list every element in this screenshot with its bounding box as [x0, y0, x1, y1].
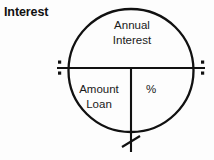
- right-divide-icon-dot-bottom: [201, 72, 204, 75]
- interest-formula-diagram: Interest Annual Interest Amount Loan %: [0, 0, 214, 160]
- left-divide-icon-dot-top: [58, 61, 61, 64]
- bottom-right-quadrant-label: %: [134, 82, 186, 97]
- right-divide-icon-dot-top: [201, 61, 204, 64]
- top-half-label: Annual Interest: [78, 18, 186, 47]
- bottom-left-quadrant-label: Amount Loan: [68, 82, 130, 111]
- left-divide-icon-dot-bottom: [58, 72, 61, 75]
